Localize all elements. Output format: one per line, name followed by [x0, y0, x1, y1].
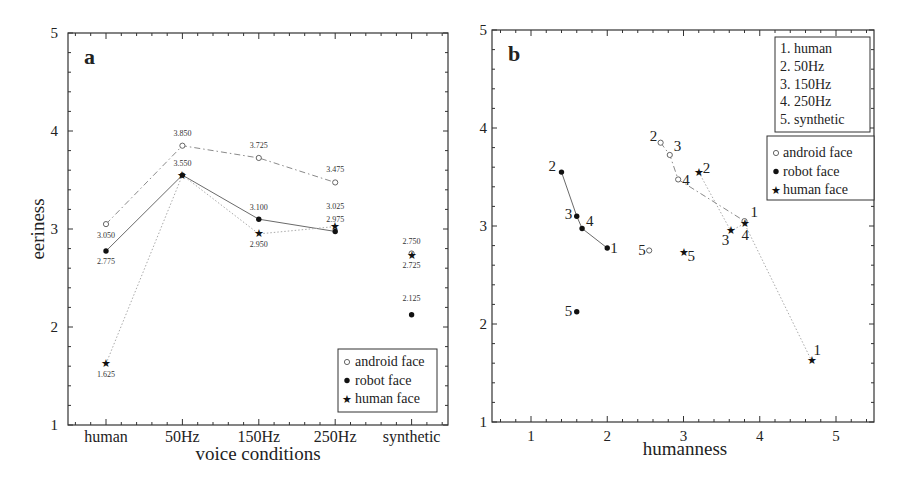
- legend: android facerobot face★human face: [767, 136, 874, 200]
- x-tick-label: 2: [604, 428, 612, 444]
- star-marker-icon: ★: [342, 393, 352, 405]
- data-value-label: 2.750: [403, 237, 421, 246]
- data-value-label: 2.125: [403, 294, 421, 303]
- point-condition-label: 5: [638, 242, 646, 258]
- series-line: [106, 175, 335, 251]
- open-circle-marker-icon: [333, 180, 338, 185]
- y-tick-label: 2: [51, 319, 59, 335]
- y-tick-label: 4: [51, 123, 59, 139]
- point-condition-label: 5: [565, 303, 573, 319]
- y-axis-title: eeriness: [27, 198, 48, 259]
- star-marker-icon: ★: [177, 169, 187, 181]
- data-value-label: 3.725: [250, 141, 268, 150]
- filled-circle-marker-icon: [605, 245, 610, 250]
- panel-b-chart: 1234512345humannessb1234512345★1★2★3★4★5…: [480, 22, 875, 459]
- point-condition-label: 2: [650, 128, 658, 144]
- point-condition-label: 2: [703, 160, 711, 176]
- point-condition-label: 5: [688, 248, 696, 264]
- condition-legend: 1. human2. 50Hz3. 150Hz4. 250Hz5. synthe…: [775, 37, 870, 132]
- star-marker-icon: ★: [407, 249, 417, 261]
- star-marker-icon: ★: [101, 357, 111, 369]
- condition-legend-item: 3. 150Hz: [780, 77, 831, 92]
- open-circle-marker-icon: [658, 140, 663, 145]
- point-condition-label: 1: [610, 240, 618, 256]
- filled-circle-marker-icon: [559, 169, 564, 174]
- series-line: [106, 175, 335, 364]
- data-value-label: 3.050: [97, 231, 115, 240]
- legend-item-label: human face: [783, 182, 848, 197]
- filled-circle-marker-icon: [773, 169, 778, 174]
- point-condition-label: 1: [751, 204, 759, 220]
- panel-label: b: [508, 41, 520, 66]
- figure: 12345human50Hz150Hz250Hzsyntheticvoice c…: [0, 0, 905, 486]
- data-value-label: 2.950: [250, 240, 268, 249]
- legend-item-label: robot face: [355, 373, 411, 388]
- point-condition-label: 2: [549, 158, 557, 174]
- x-tick-label: 5: [832, 428, 840, 444]
- filled-circle-marker-icon: [409, 312, 414, 317]
- data-value-label: 2.725: [403, 261, 421, 270]
- panel-label: a: [84, 44, 95, 69]
- x-axis-title: voice conditions: [195, 443, 320, 464]
- data-value-label: 1.625: [97, 370, 115, 379]
- x-tick-label: 4: [756, 428, 764, 444]
- point-condition-label: 3: [565, 206, 573, 222]
- data-value-label: 3.025: [326, 202, 344, 211]
- legend-item-label: robot face: [783, 164, 839, 179]
- open-circle-marker-icon: [773, 150, 778, 155]
- y-tick-label: 3: [51, 221, 59, 237]
- series-line: [661, 143, 745, 221]
- filled-circle-marker-icon: [574, 309, 579, 314]
- legend-item-label: android face: [355, 354, 425, 369]
- legend: android facerobot face★human face: [338, 349, 437, 412]
- open-circle-marker-icon: [344, 359, 349, 364]
- y-tick-label: 3: [480, 218, 488, 234]
- condition-legend-item: 1. human: [780, 41, 832, 56]
- open-circle-marker-icon: [103, 222, 108, 227]
- filled-circle-marker-icon: [579, 226, 584, 231]
- y-tick-label: 1: [51, 417, 59, 433]
- point-condition-label: 4: [742, 227, 750, 243]
- point-condition-label: 4: [586, 213, 594, 229]
- panel-a-chart: 12345human50Hz150Hz250Hzsyntheticvoice c…: [27, 25, 448, 464]
- x-category-label: synthetic: [383, 428, 441, 446]
- data-value-label: 3.100: [250, 203, 268, 212]
- y-tick-label: 5: [51, 25, 59, 41]
- open-circle-marker-icon: [676, 177, 681, 182]
- star-marker-icon: ★: [330, 220, 340, 232]
- open-circle-marker-icon: [256, 155, 261, 160]
- y-tick-label: 4: [480, 120, 488, 136]
- legend-item-label: android face: [783, 145, 853, 160]
- point-condition-label: 1: [814, 342, 822, 358]
- data-value-label: 2.775: [97, 257, 115, 266]
- legend-item-label: human face: [355, 391, 420, 406]
- x-tick-label: 1: [527, 428, 535, 444]
- point-condition-label: 4: [682, 172, 690, 188]
- y-tick-label: 5: [480, 22, 488, 38]
- open-circle-marker-icon: [647, 248, 652, 253]
- point-condition-label: 3: [674, 138, 682, 154]
- data-value-label: 3.475: [326, 165, 344, 174]
- condition-legend-item: 5. synthetic: [780, 112, 845, 127]
- condition-legend-item: 2. 50Hz: [780, 59, 824, 74]
- point-condition-label: 3: [722, 232, 730, 248]
- x-axis-title: humanness: [643, 438, 727, 459]
- y-tick-label: 2: [480, 316, 488, 332]
- star-marker-icon: ★: [254, 227, 264, 239]
- series-line: [106, 146, 335, 224]
- open-circle-marker-icon: [667, 152, 672, 157]
- y-tick-label: 1: [480, 414, 488, 430]
- x-category-label: human: [84, 428, 128, 445]
- star-marker-icon: ★: [771, 184, 781, 196]
- open-circle-marker-icon: [180, 143, 185, 148]
- condition-legend-item: 4. 250Hz: [780, 94, 831, 109]
- data-value-label: 3.550: [173, 159, 191, 168]
- filled-circle-marker-icon: [256, 217, 261, 222]
- filled-circle-marker-icon: [344, 378, 349, 383]
- filled-circle-marker-icon: [103, 248, 108, 253]
- data-value-label: 3.850: [173, 129, 191, 138]
- filled-circle-marker-icon: [574, 214, 579, 219]
